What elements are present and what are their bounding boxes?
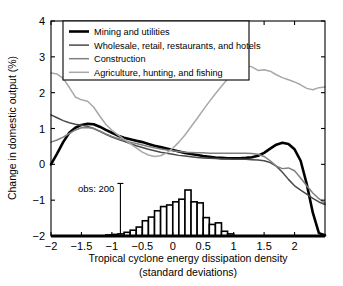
chart-figure: −2−1.5−1−0.500.511.52−2−101234 obs: 200 … bbox=[0, 0, 343, 286]
histogram-bar bbox=[155, 211, 161, 236]
legend-label: Mining and utilities bbox=[94, 27, 170, 37]
x-tick-label: 2 bbox=[291, 240, 297, 252]
histogram-bar bbox=[167, 205, 173, 236]
x-tick-label: 1.5 bbox=[256, 240, 271, 252]
y-tick-label: −1 bbox=[32, 194, 45, 206]
x-tick-label: 0.5 bbox=[196, 240, 211, 252]
legend-label: Construction bbox=[94, 54, 146, 64]
histogram-bar bbox=[203, 218, 209, 236]
histogram-bar bbox=[215, 223, 221, 236]
histogram-bar bbox=[148, 217, 154, 236]
x-tick-label: 1 bbox=[231, 240, 237, 252]
histogram-bar bbox=[161, 207, 167, 236]
histogram-bar bbox=[185, 190, 191, 236]
obs-label: obs: 200 bbox=[78, 183, 114, 194]
histogram-bar bbox=[142, 221, 148, 236]
histogram-bar bbox=[173, 202, 179, 236]
x-tick-label: −1.5 bbox=[71, 240, 93, 252]
histogram-bar bbox=[197, 203, 203, 236]
x-axis-label-line2: (standard deviations) bbox=[139, 266, 237, 278]
histogram-bar bbox=[179, 199, 185, 236]
x-tick-label: −0.5 bbox=[131, 240, 153, 252]
y-tick-label: −2 bbox=[32, 230, 45, 242]
y-tick-label: 3 bbox=[39, 51, 45, 63]
y-tick-label: 1 bbox=[39, 123, 45, 135]
legend-label: Wholesale, retail, restaurants, and hote… bbox=[94, 41, 261, 51]
y-axis-label: Change in domestic output (%) bbox=[6, 56, 18, 200]
x-tick-label: −2 bbox=[45, 240, 58, 252]
histogram-bar bbox=[191, 202, 197, 236]
legend-group[interactable]: Mining and utilitiesWholesale, retail, r… bbox=[63, 21, 261, 80]
chart-canvas: −2−1.5−1−0.500.511.52−2−101234 obs: 200 … bbox=[0, 0, 343, 286]
x-tick-label: 0 bbox=[170, 240, 176, 252]
histogram-bar bbox=[209, 224, 215, 236]
legend-label: Agriculture, hunting, and fishing bbox=[94, 68, 223, 78]
y-tick-label: 0 bbox=[39, 158, 45, 170]
x-tick-label: −1 bbox=[106, 240, 119, 252]
x-axis-label-line1: Tropical cyclone energy dissipation dens… bbox=[88, 252, 288, 264]
y-tick-label: 4 bbox=[39, 15, 45, 27]
y-tick-label: 2 bbox=[39, 87, 45, 99]
